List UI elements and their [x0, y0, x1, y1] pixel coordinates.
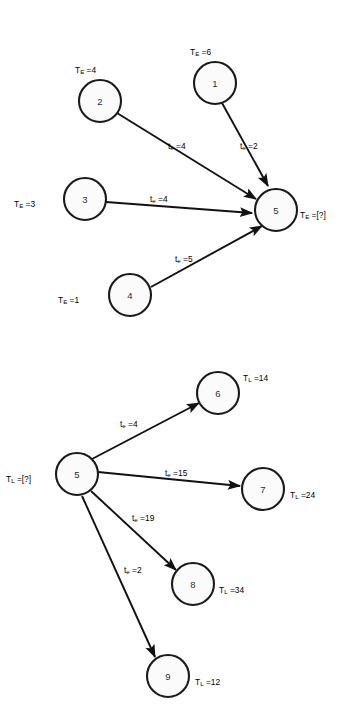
node-6-time-tag: TL =14 [243, 367, 268, 385]
edge-5-to-6-label: te =4 [120, 413, 138, 431]
node-6[interactable]: 6 [197, 372, 239, 414]
edge-5-to-7-label: te =15 [165, 462, 187, 480]
node-3-label: 3 [82, 194, 87, 205]
edge-3-to-5-label: te =4 [150, 188, 168, 206]
node-5-bottom-label: 5 [74, 469, 79, 480]
edge-4-to-5 [151, 226, 262, 287]
node-9-time-tag: TL =12 [195, 671, 220, 689]
node-7[interactable]: 7 [242, 468, 284, 510]
edge-5-to-9-label: te =2 [124, 559, 142, 577]
node-4-label: 4 [127, 290, 132, 301]
node-5-bottom[interactable]: 5 [56, 453, 98, 495]
node-5-top-time-tag: TE =[?] [300, 204, 326, 222]
node-7-label: 7 [260, 484, 265, 495]
node-9-label: 9 [165, 671, 170, 682]
node-5-top-label: 5 [273, 205, 278, 216]
node-6-label: 6 [215, 388, 220, 399]
node-4[interactable]: 4 [109, 274, 151, 316]
node-8[interactable]: 8 [172, 563, 214, 605]
node-8-label: 8 [190, 579, 195, 590]
node-9[interactable]: 9 [147, 655, 189, 697]
node-3-time-tag: TE =3 [14, 193, 35, 211]
panel-latest-times-nodes: 5 6 7 8 9 [56, 372, 284, 697]
node-1[interactable]: 1 [194, 62, 236, 104]
node-8-time-tag: TL =34 [219, 579, 244, 597]
edge-1-to-5-label: te =2 [240, 135, 258, 153]
node-2-time-tag: TE =4 [75, 59, 96, 77]
node-1-label: 1 [212, 78, 217, 89]
node-2-label: 2 [97, 96, 102, 107]
panel-earliest-times-nodes: 2 1 3 4 5 [64, 62, 297, 316]
node-2[interactable]: 2 [79, 80, 121, 122]
node-5-bottom-time-tag: TL =[?] [6, 468, 31, 486]
network-diagram-canvas: 2 1 3 4 5 5 6 [0, 0, 345, 722]
node-3[interactable]: 3 [64, 178, 106, 220]
edge-4-to-5-label: te =5 [175, 248, 193, 266]
node-5-top[interactable]: 5 [255, 189, 297, 231]
node-7-time-tag: TL =24 [290, 484, 315, 502]
edge-5-to-6 [92, 403, 199, 459]
node-4-time-tag: TE =1 [58, 289, 79, 307]
edge-5-to-8-label: te =19 [132, 507, 154, 525]
panel-latest-times-edges [82, 403, 240, 657]
edge-3-to-5 [106, 202, 252, 213]
edge-2-to-5-label: te =4 [168, 135, 186, 153]
node-1-time-tag: TE =6 [190, 41, 211, 59]
